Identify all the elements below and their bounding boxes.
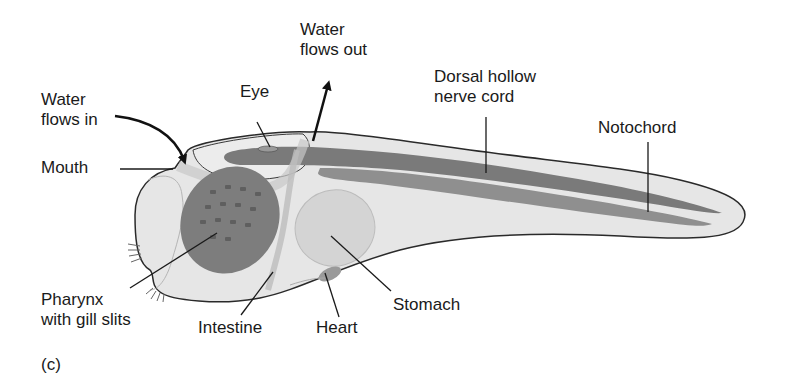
water-in-arrow — [115, 116, 184, 160]
label-mouth: Mouth — [41, 158, 88, 178]
eye-spot — [258, 146, 278, 152]
label-heart: Heart — [316, 318, 358, 338]
label-stomach: Stomach — [393, 295, 460, 315]
label-dorsal-nerve-cord: Dorsal hollow nerve cord — [434, 67, 536, 107]
label-water-out: Water flows out — [300, 20, 367, 60]
label-water-in: Water flows in — [41, 90, 98, 130]
panel-label: (c) — [41, 355, 61, 375]
label-eye: Eye — [240, 82, 269, 102]
label-notochord: Notochord — [598, 118, 676, 138]
label-pharynx: Pharynx with gill slits — [41, 290, 131, 330]
label-intestine: Intestine — [198, 318, 262, 338]
